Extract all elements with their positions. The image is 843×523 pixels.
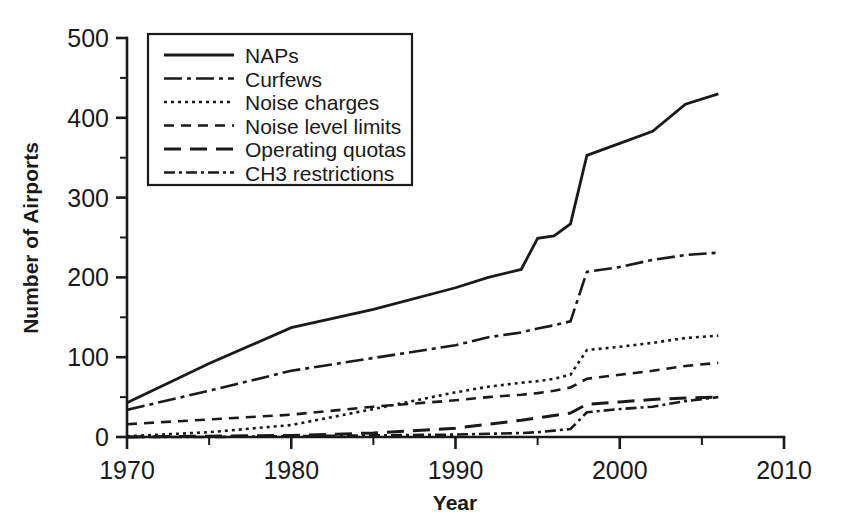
y-axis-title: Number of Airports: [19, 142, 42, 334]
legend-label-noise-charges: Noise charges: [245, 91, 379, 114]
x-tick-label: 2010: [756, 456, 812, 484]
y-tick-label: 500: [67, 24, 109, 52]
line-chart: 0100200300400500 19701980199020002010 Nu…: [0, 0, 843, 523]
legend-label-ch3-restrictions: CH3 restrictions: [245, 162, 394, 185]
legend-label-curfews: Curfews: [245, 68, 322, 91]
chart-figure: 0100200300400500 19701980199020002010 Nu…: [0, 0, 843, 523]
legend-label-naps: NAPs: [245, 44, 299, 67]
x-axis-title: Year: [433, 491, 477, 514]
y-tick-label: 300: [67, 184, 109, 212]
x-tick-label: 1970: [99, 456, 155, 484]
legend-label-operating-quotas: Operating quotas: [245, 138, 406, 161]
x-tick-label: 1980: [263, 456, 319, 484]
y-tick-label: 0: [95, 423, 109, 451]
legend-label-noise-level-limits: Noise level limits: [245, 115, 401, 138]
y-tick-label: 400: [67, 104, 109, 132]
x-tick-label: 1990: [428, 456, 484, 484]
y-tick-label: 200: [67, 263, 109, 291]
chart-legend: NAPsCurfewsNoise chargesNoise level limi…: [148, 34, 412, 185]
y-tick-label: 100: [67, 343, 109, 371]
x-tick-label: 2000: [592, 456, 648, 484]
